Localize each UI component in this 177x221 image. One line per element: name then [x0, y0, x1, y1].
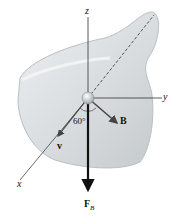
- diagram: z y x 60° B v FB: [0, 0, 177, 221]
- magnetic-force-diagram: [0, 0, 177, 221]
- force-subscript: B: [90, 204, 94, 212]
- z-axis-label: z: [85, 5, 89, 16]
- y-axis-label: y: [163, 91, 167, 102]
- force-label: FB: [84, 198, 94, 212]
- field-label: B: [120, 115, 127, 126]
- velocity-label: v: [57, 140, 62, 151]
- angle-label: 60°: [73, 116, 86, 126]
- x-axis-label: x: [17, 178, 21, 189]
- charged-particle: [82, 92, 94, 104]
